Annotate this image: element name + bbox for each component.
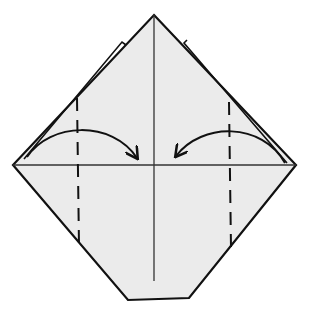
- diagram-canvas: [0, 0, 317, 322]
- origami-diagram: [0, 0, 317, 322]
